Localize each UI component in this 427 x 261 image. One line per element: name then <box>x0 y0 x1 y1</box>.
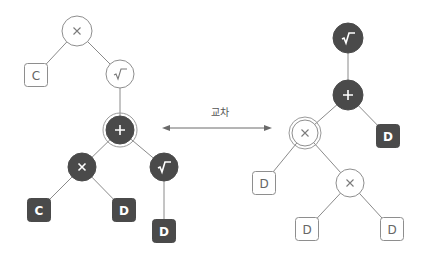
terminal-node-c: C <box>25 64 48 87</box>
node-label: D <box>259 177 268 191</box>
node-label: D <box>159 225 169 239</box>
terminal-node-c: C <box>28 199 51 222</box>
node-label: C <box>35 204 44 218</box>
terminal-node-d: D <box>153 220 176 243</box>
terminal-node-d: D <box>296 218 319 241</box>
operator-node-plus <box>333 80 363 110</box>
operator-node-sqrt <box>106 60 134 88</box>
operator-node-multiply <box>68 153 96 181</box>
nodes-layer: CCDDDDDD <box>25 16 404 243</box>
node-label: D <box>383 130 393 144</box>
operator-node-plus <box>103 113 137 147</box>
operator-node-sqrt <box>150 153 178 181</box>
operator-node-multiply <box>336 169 364 197</box>
node-label: D <box>119 204 129 218</box>
terminal-node-d: D <box>253 172 276 195</box>
operator-node-multiply <box>62 16 92 46</box>
arrow-head-right-icon <box>264 125 272 131</box>
operator-node-multiply <box>289 117 321 149</box>
terminal-node-d: D <box>113 199 136 222</box>
crossover-label: 교차 <box>211 104 229 119</box>
arrow-head-left-icon <box>162 125 170 131</box>
crossover-arrow <box>162 125 272 131</box>
node-label: D <box>387 223 396 237</box>
node-label: C <box>32 69 40 83</box>
terminal-node-d: D <box>377 125 400 148</box>
node-label: D <box>302 223 311 237</box>
terminal-node-d: D <box>381 218 404 241</box>
edges-layer <box>36 31 392 231</box>
crossover-diagram: CCDDDDDD <box>0 0 427 261</box>
operator-node-sqrt <box>333 23 363 53</box>
